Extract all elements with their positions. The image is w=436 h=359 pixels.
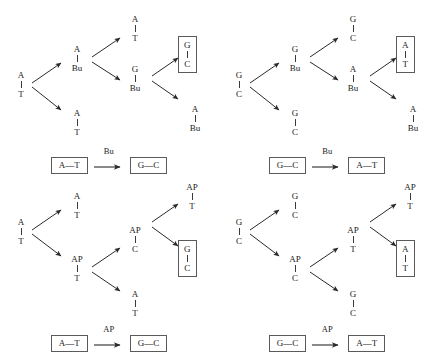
node-gen3-lower: A Bu — [400, 104, 426, 133]
hydrogen-bond-icon — [77, 265, 78, 272]
hydrogen-bond-icon — [192, 193, 193, 200]
panel-bu-at-to-gc: A T A Bu A T A T G Bu G C A Bu A—T Bu — [0, 0, 218, 179]
summary-arrow: AP — [92, 337, 126, 350]
hydrogen-bond-icon — [405, 255, 406, 262]
hydrogen-bond-icon — [239, 81, 240, 88]
summary-from: A—T — [51, 335, 88, 352]
node-gen3-upper: AP T — [178, 182, 206, 211]
summary-arrow: AP — [310, 337, 344, 350]
hydrogen-bond-icon — [195, 115, 196, 122]
summary-to: A—T — [348, 157, 385, 174]
hydrogen-bond-icon — [21, 228, 22, 235]
node-gen1-upper: G C — [282, 191, 308, 220]
hydrogen-bond-icon — [187, 51, 188, 58]
hydrogen-bond-icon — [353, 75, 354, 82]
summary-from: G—C — [269, 335, 307, 352]
node-gen2-lower: G C — [340, 289, 366, 318]
hydrogen-bond-icon — [353, 236, 354, 243]
summary-equation: G—C Bu A—T — [218, 140, 436, 174]
panel-bu-gc-to-at: G C G Bu G C G C A Bu A T A Bu G—C Bu — [218, 0, 436, 179]
hydrogen-bond-icon — [77, 119, 78, 126]
hydrogen-bond-icon — [187, 255, 188, 262]
node-gen1-upper: A Bu — [64, 44, 90, 73]
node-gen2-lower: G Bu — [122, 64, 148, 93]
node-mutant-product: G C — [178, 240, 197, 277]
hydrogen-bond-icon — [413, 115, 414, 122]
node-gen2-upper: A T — [122, 14, 148, 43]
node-gen1-lower: G C — [282, 108, 308, 137]
node-gen2-lower: A Bu — [340, 64, 366, 93]
mutagen-label: AP — [103, 324, 114, 334]
summary-equation: A—T Bu G—C — [0, 140, 218, 174]
summary-arrow: Bu — [310, 159, 344, 172]
hydrogen-bond-icon — [135, 75, 136, 82]
hydrogen-bond-icon — [353, 25, 354, 32]
summary-from: A—T — [51, 157, 88, 174]
node-gen2-upper: AP T — [340, 225, 366, 254]
hydrogen-bond-icon — [135, 25, 136, 32]
node-gen2-lower: A T — [122, 289, 148, 318]
hydrogen-bond-icon — [295, 119, 296, 126]
node-root: G C — [228, 70, 250, 99]
node-gen2-upper: AP C — [122, 225, 148, 254]
summary-to: G—C — [130, 157, 168, 174]
summary-arrow: Bu — [92, 159, 126, 172]
hydrogen-bond-icon — [405, 51, 406, 58]
node-gen1-lower: AP C — [282, 254, 308, 283]
panel-ap-gc-to-at: G C G C AP C AP T G C AP T A T G—C AP — [218, 180, 436, 359]
node-gen3-lower: A Bu — [182, 104, 208, 133]
node-gen1-upper: G Bu — [282, 44, 308, 73]
node-root: A T — [10, 70, 32, 99]
mutagen-label: Bu — [104, 146, 114, 156]
summary-to: G—C — [130, 335, 168, 352]
node-gen1-lower: AP T — [64, 254, 90, 283]
hydrogen-bond-icon — [135, 300, 136, 307]
hydrogen-bond-icon — [295, 202, 296, 209]
mutagen-label: AP — [322, 324, 333, 334]
hydrogen-bond-icon — [353, 300, 354, 307]
node-gen1-upper: A T — [64, 191, 90, 220]
node-mutant-product: A T — [396, 36, 415, 73]
hydrogen-bond-icon — [410, 193, 411, 200]
summary-from: G—C — [269, 157, 307, 174]
hydrogen-bond-icon — [295, 265, 296, 272]
panel-ap-at-to-gc: A T A T AP T AP C A T AP T G C A—T AP — [0, 180, 218, 359]
node-gen2-upper: G C — [340, 14, 366, 43]
hydrogen-bond-icon — [77, 202, 78, 209]
node-mutant-product: A T — [396, 240, 415, 277]
node-gen1-lower: A T — [64, 108, 90, 137]
node-gen3-upper: AP T — [396, 182, 424, 211]
summary-equation: A—T AP G—C — [0, 318, 218, 352]
summary-to: A—T — [348, 335, 385, 352]
hydrogen-bond-icon — [239, 228, 240, 235]
node-mutant-product: G C — [178, 36, 197, 73]
mutagen-label: Bu — [322, 146, 332, 156]
hydrogen-bond-icon — [77, 55, 78, 62]
node-root: G C — [228, 217, 250, 246]
hydrogen-bond-icon — [21, 81, 22, 88]
node-root: A T — [10, 217, 32, 246]
summary-equation: G—C AP A—T — [218, 318, 436, 352]
hydrogen-bond-icon — [135, 236, 136, 243]
hydrogen-bond-icon — [295, 55, 296, 62]
